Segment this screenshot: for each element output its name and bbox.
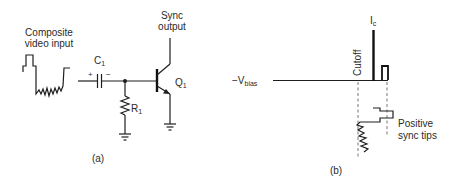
input-label-line2: video input: [25, 38, 74, 49]
panel-a-circuit: Composite video input C1 + − R1: [23, 10, 187, 164]
figure-canvas: Composite video input C1 + − R1: [0, 0, 454, 186]
ground-icon: [119, 134, 131, 140]
rotated-video-waveform-icon: [357, 108, 393, 152]
annotation-line1: Positive: [398, 118, 433, 129]
transistor-label: Q1: [175, 77, 187, 89]
capacitor-plus-sign: +: [88, 70, 93, 79]
output-label-line2: output: [158, 21, 186, 32]
output-pulse-icon: [382, 66, 388, 80]
capacitor-label: C1: [94, 55, 105, 67]
composite-video-waveform-icon: [23, 55, 70, 96]
npn-transistor-q1-icon: [157, 38, 170, 124]
resistor-r1-icon: [121, 96, 129, 115]
capacitor-minus-sign: −: [106, 70, 111, 79]
resistor-label: R1: [131, 103, 142, 115]
capacitor-c1-icon: [98, 74, 102, 88]
bias-label: −Vbias: [232, 75, 258, 87]
cutoff-label: Cutoff: [352, 49, 363, 76]
caption-b: (b): [330, 165, 342, 176]
annotation-line2: sync tips: [398, 130, 437, 141]
ground-icon: [164, 124, 176, 130]
caption-a: (a): [92, 153, 104, 164]
current-label: Ic: [370, 15, 377, 27]
output-label-line1: Sync: [161, 10, 183, 21]
panel-b-transfer-graph: −Vbias Cutoff Ic Positive sync tips (b): [232, 15, 437, 176]
input-label-line1: Composite: [25, 27, 73, 38]
